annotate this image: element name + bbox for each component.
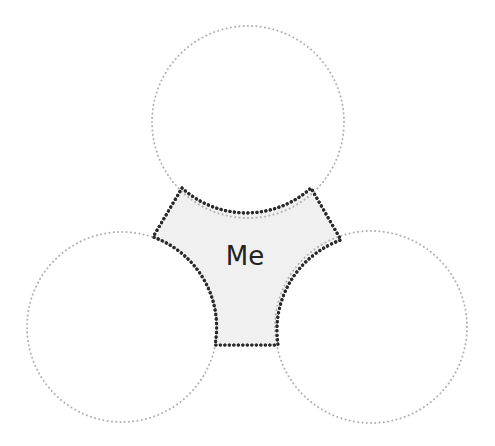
venn-diagram: Me: [0, 0, 495, 446]
circle-top: [152, 26, 344, 218]
center-label: Me: [226, 241, 264, 271]
